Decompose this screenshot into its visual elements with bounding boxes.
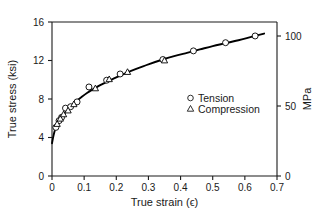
x-axis-title: True strain (ϵ): [131, 196, 198, 208]
x-tick-label: 0.1: [77, 182, 91, 193]
x-tick-label: 0.7: [270, 182, 284, 193]
chart-figure: 00.10.20.30.40.50.60.7 0481216 050100 Te…: [0, 0, 327, 221]
y-tick-label: 8: [38, 94, 44, 105]
y-tick-label: 0: [38, 171, 44, 182]
data-point-circle: [190, 48, 196, 54]
true-stress-strain-chart: 00.10.20.30.40.50.60.7 0481216 050100 Te…: [0, 0, 327, 221]
y-tick-label: 16: [33, 17, 45, 28]
x-tick-label: 0.3: [141, 182, 155, 193]
x-tick-label: 0.5: [206, 182, 220, 193]
y-tick-label: 4: [38, 132, 44, 143]
y-axis-title: True stress (ksi): [6, 60, 18, 138]
data-point-circle: [86, 84, 92, 90]
data-point-circle: [117, 71, 123, 77]
x-tick-label: 0.2: [109, 182, 123, 193]
data-point-circle: [252, 33, 258, 39]
legend-label-compression: Compression: [198, 103, 260, 115]
y-tick-label-right: 0: [285, 171, 291, 182]
data-point-circle: [223, 40, 229, 46]
y-tick-label-right: 50: [285, 101, 297, 112]
x-tick-label: 0.6: [238, 182, 252, 193]
y-tick-label-right: 100: [285, 31, 302, 42]
y-tick-label: 12: [33, 55, 45, 66]
x-tick-label: 0.4: [174, 182, 188, 193]
x-tick-label: 0: [49, 182, 55, 193]
y-axis-right-title: MPa: [301, 87, 313, 111]
